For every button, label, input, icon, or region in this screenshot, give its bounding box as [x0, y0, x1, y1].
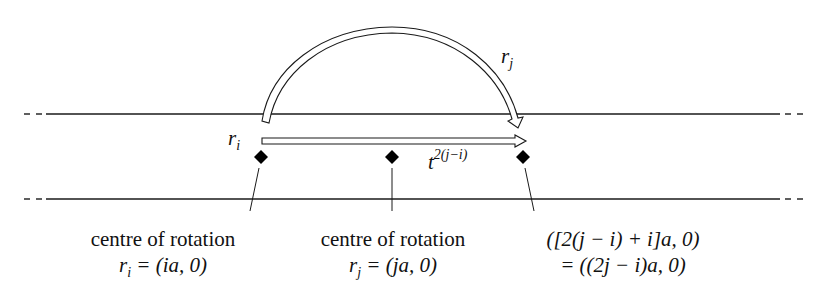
centre-ri-diamond-icon — [254, 150, 268, 164]
caption-centre-rj: centre of rotation rj = (ja, 0) — [298, 226, 488, 281]
caption-formula: rj = (ja, 0) — [298, 252, 488, 281]
image-point-diamond-icon — [516, 150, 530, 164]
formula-sub: j — [357, 265, 361, 280]
left-label-ri: ri — [228, 128, 240, 149]
caption-line2: = ((2j − i)a, 0) — [528, 252, 718, 278]
left-label-var: r — [228, 126, 236, 150]
formula-rest: = (ia, 0) — [131, 253, 207, 277]
caption-image-point: ([2(j − i) + i]a, 0) = ((2j − i)a, 0) — [528, 226, 718, 278]
translation-label: t2(j−i) — [428, 152, 467, 173]
translation-label-var: t — [428, 150, 434, 174]
formula-rest: = (ja, 0) — [361, 253, 437, 277]
arc-label-sub: j — [509, 56, 513, 71]
formula-var: r — [349, 253, 357, 277]
formula-var: r — [119, 253, 127, 277]
rotation-arc-arrow — [262, 27, 523, 128]
caption-line1: ([2(j − i) + i]a, 0) — [528, 226, 718, 252]
formula-sub: i — [127, 265, 131, 280]
caption-centre-ri: centre of rotation ri = (ia, 0) — [68, 226, 258, 281]
centre-rj-diamond-icon — [385, 150, 399, 164]
translation-label-sup: 2(j−i) — [434, 147, 468, 162]
arc-label-var: r — [501, 44, 509, 68]
caption-title: centre of rotation — [68, 226, 258, 252]
translation-arrow — [262, 135, 526, 147]
caption-title: centre of rotation — [298, 226, 488, 252]
arc-label-rj: rj — [501, 46, 513, 67]
caption-formula: ri = (ia, 0) — [68, 252, 258, 281]
leader-lines — [250, 168, 534, 211]
left-label-sub: i — [236, 138, 240, 153]
